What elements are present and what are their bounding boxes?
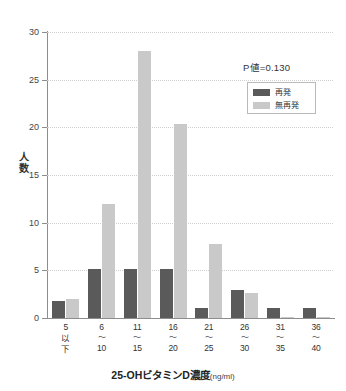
bar-recurrence-5 <box>195 308 208 318</box>
bar-no-recurrence-3 <box>138 51 151 318</box>
bar-group-8 <box>303 32 330 318</box>
y-tick-label-10: 10 <box>14 218 39 228</box>
x-tick-label-3-line-1: 11 <box>120 322 154 333</box>
y-tick-label-5: 5 <box>14 265 39 275</box>
x-axis-title-unit: (ng/ml) <box>210 372 235 381</box>
x-tick-label-8-line-1: 36 <box>299 322 333 333</box>
y-tick-label-15: 15 <box>14 170 39 180</box>
bar-group-2 <box>88 32 115 318</box>
x-tick-label-2-line-2: 〜 <box>85 333 119 343</box>
x-tick-label-4-line-3: 20 <box>156 343 190 354</box>
x-axis-title-main: 25-OHビタミンD濃度 <box>111 369 210 381</box>
x-axis-line <box>47 318 335 319</box>
bar-no-recurrence-5 <box>209 244 222 318</box>
p-value-annotation: P値=0.130 <box>243 60 290 74</box>
bar-group-5 <box>195 32 222 318</box>
legend-swatch-icon-recurrence <box>253 89 270 96</box>
x-tick-label-5-line-3: 25 <box>192 343 226 354</box>
x-tick-label-6-line-3: 30 <box>228 343 262 354</box>
bar-no-recurrence-6 <box>245 293 258 318</box>
bar-recurrence-7 <box>267 308 280 318</box>
x-tick-label-7-line-3: 35 <box>263 343 297 354</box>
x-tick-label-5: 21〜25 <box>192 322 226 354</box>
x-tick-label-4: 16〜20 <box>156 322 190 354</box>
x-tick-label-2-line-1: 6 <box>85 322 119 333</box>
bar-no-recurrence-7 <box>281 317 294 318</box>
legend-swatch-icon-no-recurrence <box>253 102 270 109</box>
x-tick-label-1-line-1: 5 <box>49 322 83 333</box>
x-tick-label-1-line-3: 下 <box>49 344 83 355</box>
x-tick-label-1: 5以下 <box>49 322 83 355</box>
bar-no-recurrence-8 <box>317 317 330 318</box>
legend: 再発 無再発 <box>247 82 316 114</box>
x-tick-label-7-line-1: 31 <box>263 322 297 333</box>
x-tick-label-5-line-1: 21 <box>192 322 226 333</box>
x-tick-label-3-line-3: 15 <box>120 343 154 354</box>
x-tick-label-5-line-2: 〜 <box>192 333 226 343</box>
legend-label-recurrence: 再発 <box>275 88 291 97</box>
x-tick-label-1-line-2: 以 <box>49 333 83 344</box>
y-tick-label-25: 25 <box>14 75 39 85</box>
bar-recurrence-1 <box>52 301 65 318</box>
y-tick-label-0: 0 <box>14 313 39 323</box>
legend-item-recurrence: 再発 <box>253 87 310 98</box>
x-tick-label-2-line-3: 10 <box>85 343 119 354</box>
x-axis-title: 25-OHビタミンD濃度(ng/ml) <box>0 367 346 382</box>
x-tick-label-7-line-2: 〜 <box>263 333 297 343</box>
bar-group-4 <box>160 32 187 318</box>
x-tick-label-8-line-2: 〜 <box>299 333 333 343</box>
x-tick-label-7: 31〜35 <box>263 322 297 354</box>
bar-group-3 <box>124 32 151 318</box>
x-tick-label-3: 11〜15 <box>120 322 154 354</box>
y-tick-label-30: 30 <box>14 27 39 37</box>
bar-group-1 <box>52 32 79 318</box>
x-tick-label-4-line-1: 16 <box>156 322 190 333</box>
bars-layer <box>47 32 333 318</box>
bar-group-7 <box>267 32 294 318</box>
bar-chart: 人 数 051015202530 5以下6〜1011〜1516〜2021〜252… <box>0 0 346 391</box>
bar-recurrence-4 <box>160 269 173 318</box>
x-tick-label-6-line-2: 〜 <box>228 333 262 343</box>
x-tick-label-8: 36〜40 <box>299 322 333 354</box>
bar-group-6 <box>231 32 258 318</box>
bar-no-recurrence-1 <box>66 299 79 318</box>
y-tick-label-20: 20 <box>14 122 39 132</box>
bar-recurrence-3 <box>124 269 137 318</box>
x-tick-label-8-line-3: 40 <box>299 343 333 354</box>
bar-no-recurrence-2 <box>102 204 115 318</box>
x-axis-labels: 5以下6〜1011〜1516〜2021〜2526〜3031〜3536〜40 <box>47 322 333 366</box>
x-tick-label-3-line-2: 〜 <box>120 333 154 343</box>
y-axis-title-char-1: 人 <box>16 152 32 163</box>
x-tick-label-4-line-2: 〜 <box>156 333 190 343</box>
x-tick-label-6: 26〜30 <box>228 322 262 354</box>
bar-recurrence-8 <box>303 308 316 318</box>
y-tick-mark-0 <box>42 318 47 319</box>
bar-no-recurrence-4 <box>174 124 187 318</box>
x-tick-label-6-line-1: 26 <box>228 322 262 333</box>
bar-recurrence-6 <box>231 290 244 318</box>
legend-label-no-recurrence: 無再発 <box>275 101 299 110</box>
x-tick-label-2: 6〜10 <box>85 322 119 354</box>
legend-item-no-recurrence: 無再発 <box>253 100 310 111</box>
bar-recurrence-2 <box>88 269 101 318</box>
